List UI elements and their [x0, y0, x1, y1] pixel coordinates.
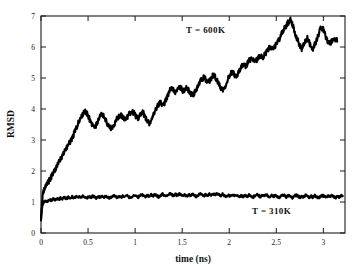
- x-tick-label: 1.5: [177, 238, 187, 247]
- x-tick-label: 1: [133, 238, 137, 247]
- y-axis-label: RMSD: [6, 110, 16, 138]
- annotation-label: T = 310K: [252, 206, 291, 216]
- annotation-label: T = 600K: [186, 25, 225, 35]
- y-tick-label: 2: [31, 167, 35, 176]
- y-tick-label: 0: [31, 229, 35, 238]
- y-tick-label: 4: [31, 105, 35, 114]
- y-tick-label: 5: [31, 74, 35, 83]
- rmsd-time-chart: 00.511.522.5301234567 T = 600KT = 310K t…: [0, 0, 362, 275]
- y-tick-label: 3: [31, 136, 35, 145]
- x-tick-label: 2: [227, 238, 231, 247]
- x-tick-label: 2.5: [272, 238, 282, 247]
- y-tick-label: 1: [31, 198, 35, 207]
- x-tick-label: 3: [321, 238, 325, 247]
- y-tick-label: 6: [31, 43, 35, 52]
- x-axis-label: time (ns): [175, 254, 211, 265]
- y-tick-label: 7: [31, 12, 35, 21]
- x-tick-label: 0: [39, 238, 43, 247]
- x-tick-label: 0.5: [83, 238, 93, 247]
